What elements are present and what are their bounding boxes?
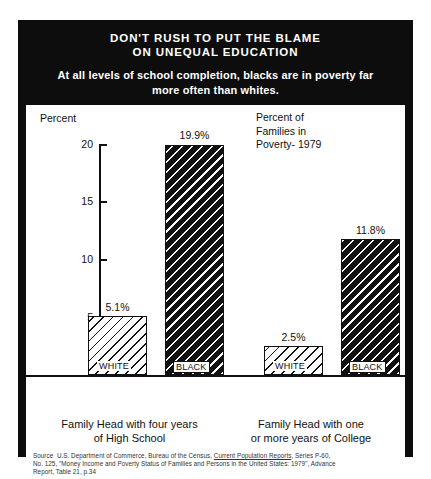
x-axis-baseline <box>26 375 405 377</box>
chart-headline: DON'T RUSH TO PUT THE BLAME ON UNEQUAL E… <box>18 20 413 59</box>
bar-value-black-high-school: 19.9% <box>165 129 224 141</box>
chart-subheadline: At all levels of school completion, blac… <box>18 59 413 97</box>
y-tick-20 <box>99 144 107 146</box>
y-tick-label-20: 20 <box>67 138 93 150</box>
source-agency: U.S. Department of Commerce, Bureau of t… <box>57 452 212 459</box>
bar-value-white-college: 2.5% <box>264 331 323 343</box>
category-label-band: Family Head with four years of High Scho… <box>26 413 405 449</box>
subheadline-line-2: more often than whites. <box>32 83 399 98</box>
source-line-2: No. 125, "Money Income and Poverty Statu… <box>33 460 399 468</box>
source-line-1: Source U.S. Department of Commerce, Bure… <box>33 452 399 460</box>
headline-line-1: DON'T RUSH TO PUT THE BLAME <box>18 31 413 45</box>
chart-figure: DON'T RUSH TO PUT THE BLAME ON UNEQUAL E… <box>18 20 413 457</box>
bar-legend-black-college: BLACK <box>349 361 386 373</box>
category-label-college-line-1: Family Head with one <box>222 417 400 431</box>
source-publication: Current Population Reports <box>214 452 292 459</box>
source-series: , Series P-60, <box>291 452 330 459</box>
subheadline-line-1: At all levels of school completion, blac… <box>32 68 399 83</box>
source-note: Source U.S. Department of Commerce, Bure… <box>26 449 405 479</box>
bar-black-high-school[interactable] <box>165 145 224 375</box>
category-label-high-school-line-1: Family Head with four years <box>32 417 227 431</box>
source-label: Source <box>33 452 53 459</box>
chart-annotation: Percent of Families in Poverty- 1979 <box>256 111 321 152</box>
plot-area: Percent Percent of Families in Poverty- … <box>26 105 405 413</box>
annotation-line-3: Poverty- 1979 <box>256 138 321 152</box>
y-axis-title: Percent <box>40 112 76 124</box>
bar-value-black-college: 11.8% <box>341 224 400 236</box>
annotation-line-1: Percent of <box>256 111 321 125</box>
category-label-high-school-line-2: of High School <box>32 431 227 445</box>
bar-legend-white-college: WHITE <box>273 361 307 371</box>
source-line-3: Report, Table 21, p.34 <box>33 468 399 476</box>
bar-legend-black-high-school: BLACK <box>173 361 210 373</box>
category-label-high-school: Family Head with four years of High Scho… <box>32 417 227 445</box>
bar-legend-white-high-school: WHITE <box>97 361 131 371</box>
y-tick-10 <box>99 259 107 261</box>
y-tick-15 <box>99 201 107 203</box>
headline-line-2: ON UNEQUAL EDUCATION <box>18 45 413 59</box>
bar-value-white-high-school: 5.1% <box>88 301 147 313</box>
category-label-college: Family Head with one or more years of Co… <box>222 417 400 445</box>
bar-black-college[interactable] <box>341 239 400 375</box>
y-tick-label-15: 15 <box>67 195 93 207</box>
category-label-college-line-2: or more years of College <box>222 431 400 445</box>
y-tick-label-10: 10 <box>67 253 93 265</box>
annotation-line-2: Families in <box>256 125 321 139</box>
